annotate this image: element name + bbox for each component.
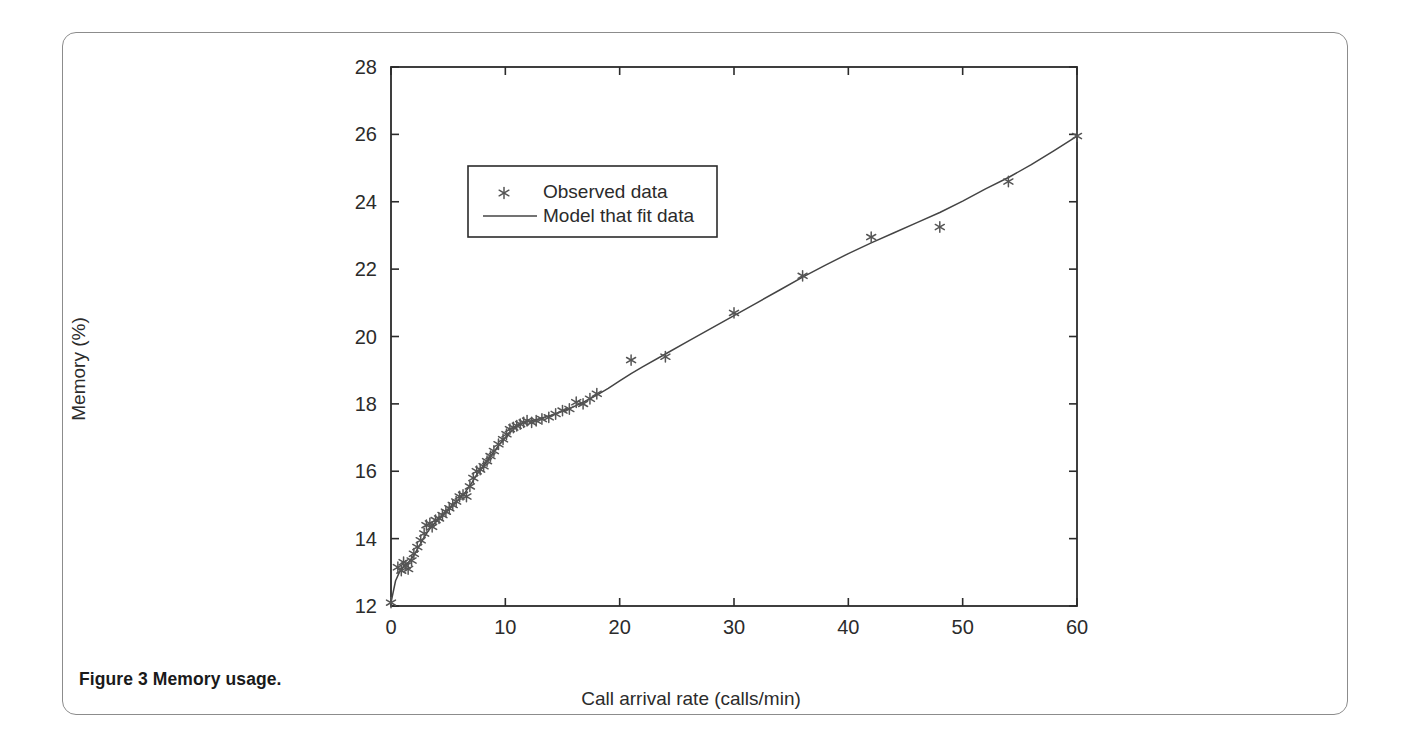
figure-card: 0102030405060 121416182022242628 Call ar…: [62, 32, 1348, 715]
x-tick-label: 60: [1066, 616, 1088, 638]
x-tick-label: 20: [609, 616, 631, 638]
axis-frame: [391, 67, 1077, 606]
legend-label-model: Model that fit data: [543, 205, 694, 226]
y-tick-label: 22: [355, 258, 377, 280]
memory-usage-chart: 0102030405060 121416182022242628 Call ar…: [63, 33, 1349, 716]
x-tick-label: 10: [494, 616, 516, 638]
x-axis-tick-labels: 0102030405060: [385, 616, 1088, 638]
x-tick-label: 0: [385, 616, 396, 638]
figure-caption-label: Figure 3: [79, 669, 148, 689]
y-tick-label: 18: [355, 393, 377, 415]
figure-caption: Figure 3 Memory usage.: [79, 669, 282, 690]
y-tick-label: 24: [355, 191, 377, 213]
chart-legend: Observed data Model that fit data: [468, 166, 717, 237]
y-tick-label: 28: [355, 56, 377, 78]
y-tick-label: 26: [355, 123, 377, 145]
legend-label-observed: Observed data: [543, 181, 668, 202]
x-axis-title: Call arrival rate (calls/min): [581, 688, 801, 709]
x-tick-label: 30: [723, 616, 745, 638]
y-axis-tick-labels: 121416182022242628: [355, 56, 377, 617]
chart-plot-area: 0102030405060 121416182022242628 Call ar…: [63, 33, 1349, 716]
x-tick-label: 40: [837, 616, 859, 638]
y-tick-label: 14: [355, 528, 377, 550]
y-axis-ticks: [391, 67, 1077, 606]
y-tick-label: 20: [355, 326, 377, 348]
y-axis-title: Memory (%): [68, 317, 89, 420]
y-tick-label: 12: [355, 595, 377, 617]
y-tick-label: 16: [355, 460, 377, 482]
x-tick-label: 50: [952, 616, 974, 638]
figure-caption-text: Memory usage.: [153, 669, 282, 689]
x-axis-ticks: [391, 67, 1077, 606]
